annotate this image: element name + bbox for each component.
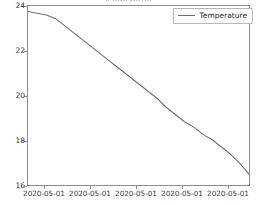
x-tick-label: 2020-05-01 (23, 190, 65, 197)
x-tick-label: 2020-05-01 (69, 190, 111, 197)
x-tick-label: 2020-05-01 (161, 190, 203, 197)
legend-line-swatch-icon (178, 15, 195, 16)
chart-figure: Temperature 1618202224 2020-05-012020-05… (0, 0, 258, 204)
chart-title: Temperature (0, 0, 258, 1)
x-tick-label: 2020-05-01 (207, 190, 249, 197)
y-tick-label: 24 (15, 2, 25, 10)
chart-legend: Temperature (173, 8, 253, 24)
temperature-line-svg (28, 6, 249, 185)
legend-label: Temperature (199, 12, 247, 20)
plot-area (27, 5, 250, 186)
temperature-line (28, 11, 249, 174)
y-tick-label: 22 (15, 47, 25, 55)
x-tick-label: 2020-05-01 (115, 190, 157, 197)
y-tick-label: 18 (15, 137, 25, 145)
y-tick-label: 20 (15, 92, 25, 100)
